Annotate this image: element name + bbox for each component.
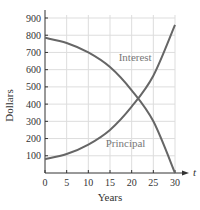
y-tick-label: 400	[26, 99, 41, 110]
x-tick-label: 30	[170, 177, 180, 188]
y-tick-label: 700	[26, 47, 41, 58]
axis-arrow-label: t	[193, 166, 197, 178]
x-axis-label: Years	[98, 191, 123, 203]
x-axis-arrow-icon	[182, 171, 189, 176]
x-tick-label: 15	[105, 177, 115, 188]
y-tick-label: 300	[26, 116, 41, 127]
annotation-interest: Interest	[119, 51, 152, 63]
y-tick-label: 800	[26, 30, 41, 41]
x-tick-label: 5	[64, 177, 69, 188]
y-axis-label: Dollars	[3, 89, 15, 121]
grid	[45, 15, 175, 173]
x-tick-label: 0	[43, 177, 48, 188]
y-tick-label: 900	[26, 13, 41, 24]
x-tick-label: 20	[127, 177, 137, 188]
annotation-principal: Principal	[106, 137, 146, 149]
y-tick-label: 500	[26, 81, 41, 92]
x-tick-label: 10	[83, 177, 93, 188]
y-tick-label: 100	[26, 150, 41, 161]
y-tick-label: 600	[26, 64, 41, 75]
y-tick-label: 200	[26, 133, 41, 144]
x-tick-label: 25	[148, 177, 158, 188]
chart: t051015202530100200300400500600700800900…	[0, 0, 200, 210]
